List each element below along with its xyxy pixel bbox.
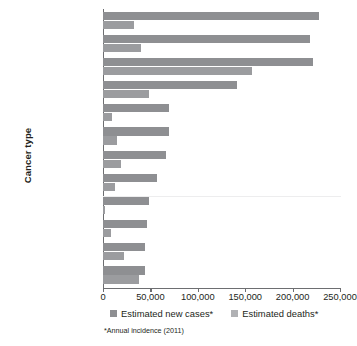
bar-new-cases — [103, 174, 157, 182]
bar-new-cases — [103, 35, 310, 43]
x-tick-label: 0 — [100, 292, 105, 302]
chart-row: Prostate — [103, 10, 340, 33]
bar-deaths — [103, 206, 105, 214]
bar-deaths — [103, 136, 117, 144]
bar-deaths — [103, 183, 115, 191]
bar-new-cases — [103, 220, 147, 228]
bar-new-cases — [103, 104, 169, 112]
x-tick-label: 150,000 — [228, 292, 262, 302]
bar-deaths — [103, 67, 252, 75]
chart-row: Non-Hodgkin lymphoma — [103, 149, 340, 172]
bar-group — [103, 33, 340, 56]
y-axis-title: Cancer type — [22, 101, 33, 211]
bar-deaths — [103, 90, 149, 98]
legend-swatch-cases — [110, 310, 117, 317]
bar-new-cases — [103, 81, 237, 89]
x-tick-label: 100,000 — [181, 292, 215, 302]
legend: Estimated new cases* Estimated deaths* — [110, 308, 318, 319]
chart-row: Pancreatic — [103, 265, 340, 288]
bar-new-cases — [103, 266, 145, 274]
chart-row: Lung — [103, 56, 340, 79]
bar-new-cases — [103, 197, 149, 205]
bar-group — [103, 195, 340, 218]
bar-group — [103, 56, 340, 79]
legend-label-deaths: Estimated deaths* — [242, 308, 318, 319]
bar-new-cases — [103, 127, 169, 135]
bar-group — [103, 242, 340, 265]
chart-row: Breast (female) — [103, 33, 340, 56]
x-tick-label: 50,000 — [136, 292, 164, 302]
x-axis-line — [103, 288, 341, 289]
bar-group — [103, 80, 340, 103]
bar-new-cases — [103, 12, 319, 20]
bar-deaths — [103, 113, 112, 121]
bar-group — [103, 219, 340, 242]
chart-row: Melanoma — [103, 103, 340, 126]
legend-swatch-deaths — [231, 310, 238, 317]
legend-item-cases: Estimated new cases* — [110, 308, 213, 319]
bar-deaths — [103, 44, 141, 52]
chart-row: Thyroid — [103, 195, 340, 218]
chart-row: Renal cell — [103, 172, 340, 195]
x-tick-label: 250,000 — [323, 292, 357, 302]
bar-deaths — [103, 229, 111, 237]
bar-deaths — [103, 160, 121, 168]
chart-footnote: *Annual incidence (2011) — [104, 326, 184, 335]
chart-row: Endometrial — [103, 219, 340, 242]
chart-row: Bladder — [103, 126, 340, 149]
legend-label-cases: Estimated new cases* — [121, 308, 213, 319]
bar-deaths — [103, 21, 134, 29]
bar-new-cases — [103, 58, 313, 66]
bar-group — [103, 172, 340, 195]
plot-area: ProstateBreast (female)LungColon & recta… — [103, 10, 340, 288]
bar-deaths — [103, 275, 139, 283]
chart-row: Leukemia — [103, 242, 340, 265]
legend-item-deaths: Estimated deaths* — [231, 308, 318, 319]
bar-group — [103, 10, 340, 33]
bar-new-cases — [103, 243, 145, 251]
bar-group — [103, 265, 340, 288]
bar-new-cases — [103, 151, 166, 159]
x-tick-label: 200,000 — [276, 292, 310, 302]
chart-row: Colon & rectal — [103, 80, 340, 103]
bar-group — [103, 126, 340, 149]
bar-deaths — [103, 252, 124, 260]
bar-group — [103, 103, 340, 126]
bar-group — [103, 149, 340, 172]
